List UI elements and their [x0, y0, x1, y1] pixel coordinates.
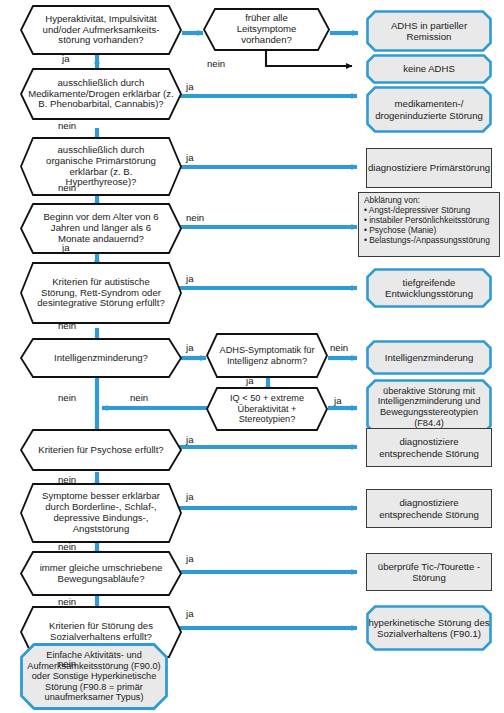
outcome-o7[interactable]: Intelligenzminderung — [366, 340, 492, 375]
decision-d3-label: ausschließlich durch Medikamente/Drogen … — [26, 78, 176, 110]
decision-d9[interactable]: IQ < 50 + extreme Überaktivität + Stereo… — [206, 387, 328, 431]
outcome-o10[interactable]: diagnostiziere entsprechende Störung — [366, 489, 492, 528]
outcome-o5-item: • Psychose (Manie) — [364, 225, 436, 235]
outcome-o8-label: überaktive Störung mit Intelligenzminder… — [368, 386, 490, 428]
outcome-o12-label: hyperkinetische Störung des Sozialverhal… — [368, 617, 490, 639]
outcome-o13-label: Einfache Aktivitäts- und Aufmerksamkeits… — [24, 650, 164, 703]
edge-label-d2-nein: nein — [207, 58, 225, 69]
outcome-o12[interactable]: hyperkinetische Störung des Sozialverhal… — [366, 605, 492, 651]
decision-d11[interactable]: Symptome besser erklärbar durch Borderli… — [20, 483, 182, 543]
edge-label-d11-ja: ja — [186, 491, 193, 502]
edge-label-d9-ja: ja — [334, 395, 341, 406]
edge-label-d5-ja: ja — [62, 242, 69, 253]
outcome-o9[interactable]: diagnostiziere entsprechende Störung — [366, 428, 492, 467]
outcome-o2[interactable]: keine ADHS — [366, 54, 492, 84]
edge-label-d6-ja: ja — [186, 273, 193, 284]
decision-d2[interactable]: früher alle Leitsymptome vorhanden? — [203, 8, 330, 51]
outcome-o8[interactable]: überaktive Störung mit Intelligenzminder… — [366, 379, 492, 435]
edge-label-d4-nein: nein — [58, 182, 76, 193]
outcome-o5-item: • instabiler Persönlichkeitsstörung — [364, 215, 489, 225]
outcome-o9-label: diagnostiziere entsprechende Störung — [367, 436, 491, 459]
edge-label-d7-nein: nein — [58, 392, 76, 403]
flowchart-canvas: Hyperaktivität, Impulsivität und/oder Au… — [0, 0, 504, 713]
outcome-o4-label: diagnostiziere Primärstörung — [368, 162, 490, 173]
decision-d3[interactable]: ausschließlich durch Medikamente/Drogen … — [20, 68, 182, 120]
decision-d12-label: immer gleiche umschriebene Bewegungsablä… — [26, 563, 176, 585]
decision-d4-label: ausschließlich durch organische Primärst… — [36, 145, 166, 188]
decision-d7[interactable]: Intelligenzminderung? — [20, 338, 182, 378]
edge-label-d12-ja: ja — [186, 553, 193, 564]
outcome-o5-item: • Angst-/depressiver Störung — [364, 205, 470, 215]
outcome-o6[interactable]: tiefgreifende Entwicklungsstörung — [366, 268, 492, 308]
edge-label-d13-nein: nein — [58, 658, 76, 669]
outcome-o13[interactable]: Einfache Aktivitäts- und Aufmerksamkeits… — [20, 643, 168, 710]
decision-d4[interactable]: ausschließlich durch organische Primärst… — [20, 137, 182, 196]
outcome-o7-label: Intelligenzminderung — [385, 352, 474, 363]
decision-d9-label: IQ < 50 + extreme Überaktivität + Stereo… — [209, 393, 325, 424]
decision-d7-label: Intelligenzminderung? — [54, 353, 148, 364]
outcome-o4[interactable]: diagnostiziere Primärstörung — [366, 148, 492, 188]
edge-label-d10-ja: ja — [186, 434, 193, 445]
outcome-o1-label: ADHS in partieller Remission — [374, 20, 484, 42]
outcome-o5[interactable]: Abklärung von: • Angst-/depressiver Stör… — [358, 192, 500, 257]
decision-d8-label: ADHS-Symptomatik für Intelligenz abnorm? — [209, 345, 325, 366]
edge-label-d12-nein: nein — [58, 596, 76, 607]
decision-d6-label: Kriterien für autistische Störung, Rett-… — [36, 277, 166, 309]
edge-label-d3-nein: nein — [58, 120, 76, 131]
outcome-o5-item: • Belastungs-/Anpassungsstörung — [364, 235, 490, 245]
outcome-o11-label: überprüfe Tic-/Tourette -Störung — [367, 561, 491, 584]
edge-label-d8-ja: ja — [246, 375, 253, 386]
edge-label-d13-ja: ja — [186, 608, 193, 619]
edge-label-d9-nein: nein — [130, 392, 148, 403]
edge-label-d4-ja: ja — [186, 152, 193, 163]
decision-d8[interactable]: ADHS-Symptomatik für Intelligenz abnorm? — [206, 333, 328, 378]
outcome-o2-label: keine ADHS — [403, 63, 455, 74]
decision-d10-label: Kriterien für Psychose erfüllt? — [38, 445, 163, 456]
edge-label-d11-nein: nein — [58, 541, 76, 552]
edge-label-d6-nein: nein — [58, 320, 76, 331]
edge-label-d8-nein: nein — [330, 342, 348, 353]
outcome-o5-heading: Abklärung von: — [364, 195, 420, 205]
decision-d13-label: Kriterien für Störung des Sozialverhalte… — [36, 621, 166, 643]
decision-d12[interactable]: immer gleiche umschriebene Bewegungsablä… — [20, 551, 182, 596]
outcome-o3[interactable]: medikamenten-/ drogeninduzierte Störung — [366, 86, 492, 133]
outcome-o6-label: tiefgreifende Entwicklungsstörung — [374, 277, 484, 299]
edge-label-d1-ja: ja — [62, 53, 69, 64]
decision-d10[interactable]: Kriterien für Psychose erfüllt? — [20, 429, 182, 471]
outcome-o10-label: diagnostiziere entsprechende Störung — [367, 497, 491, 520]
decision-d11-label: Symptome besser erklärbar durch Borderli… — [36, 491, 166, 534]
decision-d6[interactable]: Kriterien für autistische Störung, Rett-… — [20, 262, 182, 324]
decision-d5[interactable]: Beginn vor dem Alter von 6 Jahren und lä… — [20, 203, 182, 254]
edge-label-d10-nein: nein — [58, 474, 76, 485]
outcome-o11[interactable]: überprüfe Tic-/Tourette -Störung — [366, 553, 492, 591]
edge-label-d7-ja: ja — [186, 342, 193, 353]
decision-d2-label: früher alle Leitsymptome vorhanden? — [216, 13, 317, 45]
edge-label-d3-ja: ja — [186, 81, 193, 92]
outcome-o1[interactable]: ADHS in partieller Remission — [366, 10, 492, 52]
decision-d1-label: Hyperaktivität, Impulsivität und/oder Au… — [36, 14, 166, 46]
outcome-o3-label: medikamenten-/ drogeninduzierte Störung — [374, 98, 484, 120]
decision-d1[interactable]: Hyperaktivität, Impulsivität und/oder Au… — [20, 5, 182, 55]
decision-d5-label: Beginn vor dem Alter von 6 Jahren und lä… — [36, 212, 166, 244]
edge-label-d5-nein: nein — [186, 212, 204, 223]
